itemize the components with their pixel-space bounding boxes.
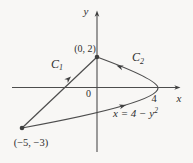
point-0-2-dot xyxy=(95,55,100,60)
x-intercept-label: 4 xyxy=(151,93,157,104)
c1-subscript: 1 xyxy=(59,63,63,72)
equation-base: x = 4 − y xyxy=(112,107,154,119)
parabola-line-integral-figure: y x 0 (0, 2) (−5, −3) 4 C1 C2 x = 4 − y2 xyxy=(0,0,193,163)
equation-label: x = 4 − y2 xyxy=(112,106,158,119)
c2-subscript: 2 xyxy=(140,57,144,66)
x-axis-label: x xyxy=(176,92,182,104)
origin-label: 0 xyxy=(86,88,91,99)
equation-exponent: 2 xyxy=(154,106,158,115)
point-0-2-label: (0, 2) xyxy=(74,43,96,55)
y-axis-label: y xyxy=(83,5,89,17)
curve-c2-label: C2 xyxy=(132,50,144,66)
curve-c1-label: C1 xyxy=(51,57,63,73)
point-neg5-neg3-dot xyxy=(20,126,25,131)
diagram-canvas: y x 0 (0, 2) (−5, −3) 4 C1 C2 x = 4 − y2 xyxy=(0,0,193,163)
point-neg5-neg3-label: (−5, −3) xyxy=(14,137,49,149)
